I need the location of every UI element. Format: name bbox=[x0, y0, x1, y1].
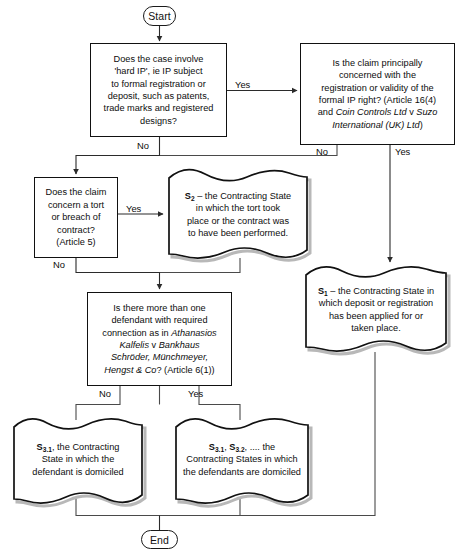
decision-registration-validity[interactable]: Is the claim principallyconcerned with t… bbox=[300, 43, 455, 145]
decision-hard-ip-text: Does the case involve'hard IP', ie IP su… bbox=[100, 53, 218, 127]
decision-more-defendants[interactable]: Is there more than onedefendant with req… bbox=[87, 292, 232, 386]
end-label: End bbox=[150, 534, 169, 546]
start-label: Start bbox=[148, 10, 171, 22]
decision-more-defendants-text: Is there more than onedefendant with req… bbox=[98, 302, 220, 376]
decision-tort-contract[interactable]: Does the claimconcern a tortor breach of… bbox=[34, 177, 118, 258]
edge-tort-no bbox=[76, 258, 160, 289]
outcome-s31-single-text: S3.1, the ContractingState in which thed… bbox=[8, 441, 148, 478]
edge-label-registration-no: No bbox=[316, 146, 328, 157]
edge-label-tort-no: No bbox=[53, 259, 65, 270]
edge-label-defendants-yes: Yes bbox=[188, 388, 203, 399]
edge-label-registration-yes: Yes bbox=[395, 146, 410, 157]
outcome-s31-single: S3.1, the ContractingState in which thed… bbox=[8, 415, 148, 505]
edge-label-hardip-no: No bbox=[137, 140, 149, 151]
outcome-s2: S2 – the Contracting Statein which the t… bbox=[163, 166, 313, 260]
outcome-s31-s32-multi-text: S3.1, S3.2, .... theContracting States i… bbox=[170, 441, 314, 478]
decision-registration-validity-text: Is the claim principallyconcerned with t… bbox=[314, 57, 442, 131]
decision-tort-contract-text: Does the claimconcern a tortor breach of… bbox=[42, 186, 111, 248]
edge-label-tort-yes: Yes bbox=[126, 203, 141, 214]
outcome-s1-text: S1 – the Contracting State inwhich depos… bbox=[300, 285, 452, 335]
edge-label-hardip-yes: Yes bbox=[235, 79, 250, 90]
flowchart-canvas: Start Does the case involve'hard IP', ie… bbox=[0, 0, 460, 556]
outcome-s1: S1 – the Contracting State inwhich depos… bbox=[300, 263, 452, 353]
decision-hard-ip[interactable]: Does the case involve'hard IP', ie IP su… bbox=[90, 43, 227, 137]
start-terminator: Start bbox=[143, 6, 176, 26]
outcome-s31-s32-multi: S3.1, S3.2, .... theContracting States i… bbox=[170, 415, 314, 505]
outcome-s2-text: S2 – the Contracting Statein which the t… bbox=[163, 190, 313, 240]
edge-registration-no bbox=[160, 145, 337, 156]
end-terminator: End bbox=[141, 530, 178, 549]
edge-label-defendants-no: No bbox=[99, 388, 111, 399]
